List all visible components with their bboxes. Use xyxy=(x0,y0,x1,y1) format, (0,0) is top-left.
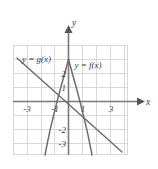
y-tick-neg2: -2 xyxy=(59,125,67,135)
y-tick-1: 1 xyxy=(62,83,67,93)
curve-label-f: y = f(x) xyxy=(73,60,101,70)
y-tick-neg3: -3 xyxy=(59,139,67,149)
x-tick-1: 1 xyxy=(81,104,86,114)
graph-figure: -3 -1 1 3 2 1 -2 -3 x y y = g(x) y = f(x… xyxy=(0,0,158,169)
coordinate-plane-svg: -3 -1 1 3 2 1 -2 -3 x y y = g(x) y = f(x… xyxy=(0,0,158,169)
curve-label-g: y = g(x) xyxy=(21,54,51,64)
y-tick-2: 2 xyxy=(62,69,67,79)
y-axis-label: y xyxy=(71,18,77,28)
x-tick-neg3: -3 xyxy=(23,104,31,114)
x-tick-3: 3 xyxy=(108,104,114,114)
x-tick-neg1: -1 xyxy=(51,104,59,114)
x-axis-label: x xyxy=(145,97,151,107)
